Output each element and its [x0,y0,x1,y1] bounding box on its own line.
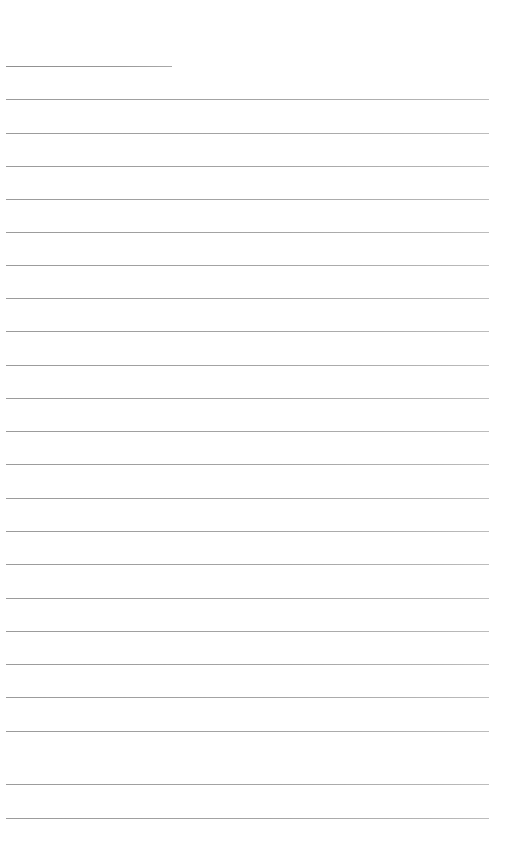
rule-line [6,431,489,432]
rule-line [6,564,489,565]
rule-line [6,66,172,67]
rule-line [6,365,489,366]
rule-line [6,199,489,200]
rule-line [6,265,489,266]
rule-line [6,531,489,532]
rule-line [6,818,489,819]
rule-line [6,498,489,499]
rule-line [6,166,489,167]
rule-line [6,464,489,465]
ruled-paper-page [0,0,512,850]
rule-line [6,133,489,134]
rule-line [6,99,489,100]
rule-line [6,298,489,299]
rule-line [6,331,489,332]
rule-line [6,598,489,599]
rule-line [6,697,489,698]
rule-line [6,784,489,785]
rule-line [6,398,489,399]
rule-line [6,631,489,632]
rule-line [6,232,489,233]
rule-line [6,731,489,732]
writing-area[interactable] [0,0,512,850]
rule-line [6,664,489,665]
